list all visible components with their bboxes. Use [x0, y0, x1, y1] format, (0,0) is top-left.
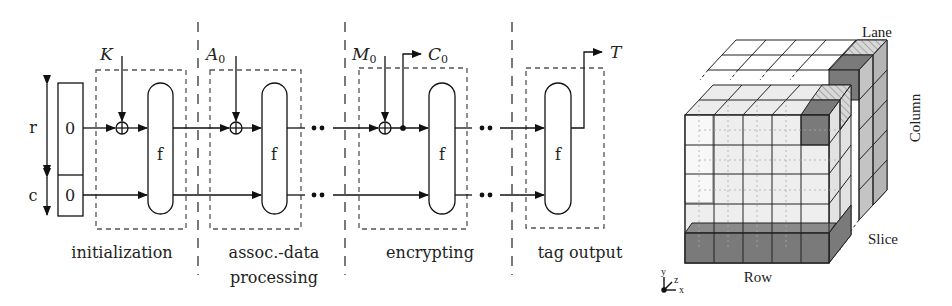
xor-icon	[116, 122, 128, 134]
lane-label: Lane	[862, 24, 892, 40]
phase-label-tag-output: tag output	[538, 243, 623, 262]
capacity-label: c	[29, 186, 38, 205]
state-cube	[685, 40, 887, 263]
ellipsis-dots	[312, 126, 493, 198]
sponge-diagram	[47, 22, 604, 275]
svg-text:y: y	[661, 266, 666, 277]
assoc-data-label: A0	[204, 44, 225, 66]
slice-label: Slice	[868, 231, 898, 247]
column-label: Column	[907, 93, 923, 142]
row-dark-top	[685, 223, 836, 233]
ciphertext-label: C0	[428, 44, 448, 66]
xor-icon	[379, 122, 391, 134]
phase-label-assoc-data: assoc.-data	[229, 243, 320, 262]
tag-label: T	[610, 42, 623, 62]
figure-canvas: r c 0 0 f f f f K A0 M0 C0 T initializat…	[0, 0, 952, 306]
phase-label-initialization: initialization	[71, 243, 172, 262]
xor-icon	[230, 122, 242, 134]
svg-text:x: x	[679, 284, 684, 295]
key-label: K	[99, 44, 114, 64]
phase-label-processing: processing	[230, 268, 318, 287]
tag-output-arrow	[571, 52, 602, 128]
sponge-labels: r c 0 0 f f f f K A0 M0 C0 T initializat…	[29, 42, 623, 287]
ciphertext-output-arrow	[403, 54, 421, 128]
message-label: M0	[351, 44, 376, 66]
phase-label-encrypting: encrypting	[386, 243, 474, 262]
axis-icon: y z x	[661, 266, 684, 295]
rate-label: r	[29, 118, 37, 137]
capacity-init-value: 0	[65, 186, 75, 205]
rate-init-value: 0	[65, 119, 75, 138]
row-label: Row	[744, 269, 773, 285]
